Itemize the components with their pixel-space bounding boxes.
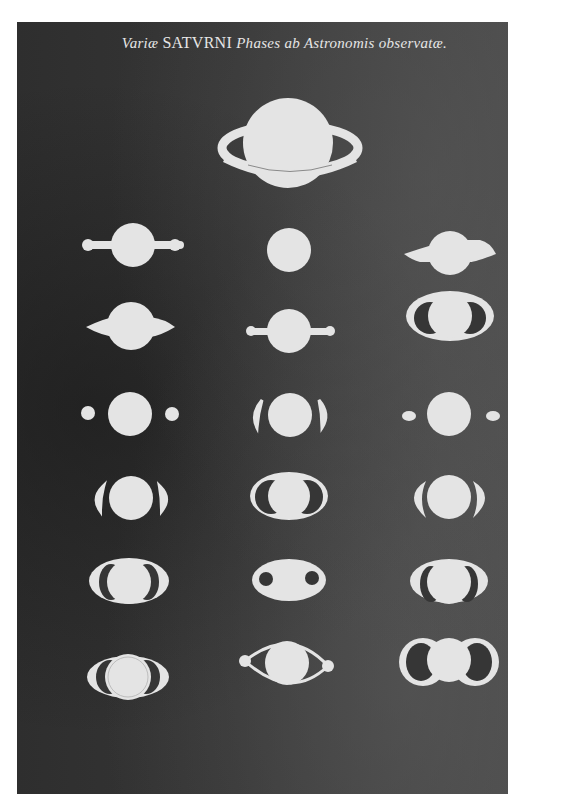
figure-11-crescent-globe (97, 476, 166, 520)
figure-5-winged-globe (86, 302, 175, 350)
figure-14-ringed-globe (89, 558, 169, 604)
figure-7-ringed-globe (406, 291, 494, 341)
figure-17-ringed-globe (87, 654, 169, 700)
figure-15-oval-with-holes (252, 559, 326, 601)
figure-3-plain-globe (267, 228, 311, 272)
saturn-figures: .w { fill: #e4e4e4; } .d { fill: #363636… (0, 0, 569, 807)
figure-9-crescent-globe (254, 393, 325, 437)
figure-18-lens-ringed-globe (239, 641, 334, 685)
figure-10-globe-with-companions (402, 392, 500, 436)
figure-16-ringed-globe (410, 559, 488, 604)
figure-6-handled-globe (246, 309, 335, 353)
figure-2-handled-globe (82, 223, 184, 267)
figure-12-ringed-globe (250, 472, 328, 520)
figure-4-winged-globe (404, 231, 496, 275)
figure-8-globe-with-companions (81, 392, 179, 436)
figure-1-ringed-globe (222, 98, 358, 188)
figure-19-looped-globe (399, 638, 499, 686)
figure-13-crescent-globe (414, 475, 485, 519)
